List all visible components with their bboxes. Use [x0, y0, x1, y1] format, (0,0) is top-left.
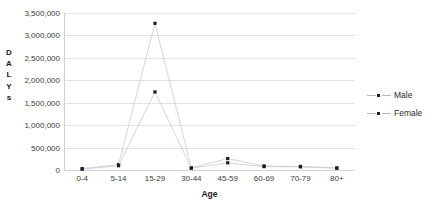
- data-point-female-70-79[interactable]: [299, 165, 302, 168]
- data-point-female-0-4[interactable]: [81, 168, 84, 171]
- y-axis-tick-label: 500,000: [14, 143, 60, 152]
- y-axis-tick-label: 3,000,000: [14, 31, 60, 40]
- series-line-male: [82, 23, 337, 168]
- x-axis-tick-label: 5-14: [111, 174, 127, 183]
- x-axis-title: Age: [64, 189, 355, 199]
- y-axis-tick-label: 2,000,000: [14, 76, 60, 85]
- y-axis-tick-label: 3,500,000: [14, 9, 60, 18]
- y-axis-tick-labels: 3,500,0003,000,0002,500,0002,000,0001,50…: [14, 0, 60, 206]
- legend-label-female: Female: [394, 108, 422, 118]
- data-point-female-80+[interactable]: [335, 167, 338, 170]
- legend-label-male: Male: [394, 90, 412, 100]
- y-axis-tick-label: 1,500,000: [14, 98, 60, 107]
- x-axis-tick-label: 45-59: [217, 174, 237, 183]
- y-axis-tick-label: 2,500,000: [14, 53, 60, 62]
- legend: Male Female: [367, 86, 437, 122]
- data-point-female-45-59[interactable]: [226, 161, 229, 164]
- data-point-male-15-29[interactable]: [153, 22, 156, 25]
- x-axis-tick-label: 80+: [330, 174, 344, 183]
- data-series-layer: [64, 13, 355, 170]
- gridline: [64, 170, 355, 171]
- plot-area: [64, 13, 355, 170]
- data-point-female-5-14[interactable]: [117, 164, 120, 167]
- y-axis-tick-label: 1,000,000: [14, 121, 60, 130]
- data-point-male-45-59[interactable]: [226, 157, 229, 160]
- data-point-female-30-44[interactable]: [190, 167, 193, 170]
- x-axis-tick-label: 0-4: [76, 174, 88, 183]
- x-axis-tick-label: 15-29: [145, 174, 165, 183]
- x-axis-tick-label: 30-44: [181, 174, 201, 183]
- legend-marker-male-icon: [367, 91, 391, 100]
- y-axis-tick-label: 0: [14, 166, 60, 175]
- x-axis-tick-labels: 0-45-1415-2930-4445-5960-6970-7980+: [64, 174, 355, 188]
- x-axis-tick-label: 70-79: [290, 174, 310, 183]
- x-axis-tick-label: 60-69: [254, 174, 274, 183]
- data-point-female-15-29[interactable]: [153, 90, 156, 93]
- legend-item-female[interactable]: Female: [367, 104, 437, 122]
- dalys-by-age-line-chart: D A L Y s 3,500,0003,000,0002,500,0002,0…: [0, 0, 439, 206]
- data-point-female-60-69[interactable]: [262, 165, 265, 168]
- legend-item-male[interactable]: Male: [367, 86, 437, 104]
- legend-marker-female-icon: [367, 109, 391, 118]
